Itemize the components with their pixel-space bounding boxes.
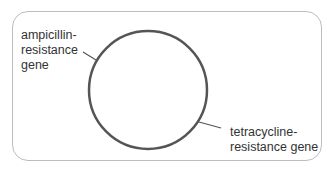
label-line: ampicillin-: [21, 28, 78, 43]
label-line: tetracycline-: [230, 125, 318, 140]
ampicillin-pointer-line: [83, 52, 96, 60]
tetracycline-pointer-line: [199, 122, 221, 128]
ampicillin-resistance-label: ampicillin- resistance gene: [21, 28, 78, 73]
plasmid-circle: [89, 31, 207, 149]
tetracycline-resistance-label: tetracycline- resistance gene: [230, 125, 318, 155]
label-line: resistance: [21, 43, 78, 58]
label-line: gene: [21, 58, 78, 73]
label-line: resistance gene: [230, 140, 318, 155]
